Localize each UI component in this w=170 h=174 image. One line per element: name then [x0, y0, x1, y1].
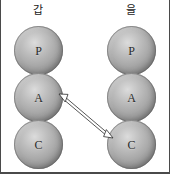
node-left-c[interactable]: C [14, 120, 63, 169]
node-right-a[interactable]: A [107, 73, 156, 122]
column-label-left: 갑 [8, 4, 68, 18]
node-left-a[interactable]: A [14, 73, 63, 122]
node-left-p[interactable]: P [14, 26, 63, 75]
node-label: C [127, 139, 135, 151]
node-label: A [127, 92, 136, 104]
diagram-canvas: 갑 을 P A C P A C [0, 0, 170, 174]
node-label: P [35, 45, 42, 57]
node-label: A [34, 92, 43, 104]
node-right-p[interactable]: P [107, 26, 156, 75]
node-label: C [34, 139, 42, 151]
node-label: P [128, 45, 135, 57]
column-label-right: 을 [101, 4, 161, 18]
node-right-c[interactable]: C [107, 120, 156, 169]
double-headed-arrow-icon[interactable] [59, 94, 113, 138]
